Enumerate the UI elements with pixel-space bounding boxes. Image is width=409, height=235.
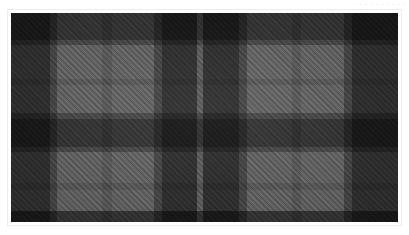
screenshot-canvas: · · · · · · · · · · · <box>0 0 409 235</box>
tartan-swatch-image <box>11 13 398 222</box>
tartan-weft-stripes <box>11 13 398 222</box>
vignette-overlay <box>11 13 398 222</box>
twill-weave-texture <box>11 13 398 222</box>
swatch-frame <box>7 9 402 226</box>
tartan-warp-stripes <box>11 13 398 222</box>
watermark-text: · · · · · · · · · · · <box>348 0 406 9</box>
